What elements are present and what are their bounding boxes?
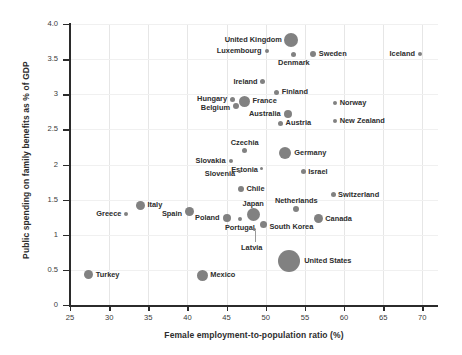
x-tick-mark (148, 305, 149, 311)
gridline-horizontal (70, 94, 438, 95)
y-tick-label: 4.0 (30, 19, 58, 28)
data-point-label: Denmark (278, 59, 310, 66)
y-tick-mark (63, 24, 69, 25)
x-tick-mark (187, 305, 188, 311)
data-point-bubble[interactable] (331, 192, 336, 197)
data-point-bubble[interactable] (238, 170, 241, 173)
x-tick-label: 40 (172, 313, 202, 322)
data-point-label: Portugal (225, 224, 255, 231)
data-point-label: Poland (195, 214, 220, 221)
x-tick-label: 65 (368, 313, 398, 322)
data-point-label: Mexico (210, 272, 235, 279)
data-point-bubble[interactable] (239, 96, 250, 107)
data-point-label: Luxembourg (217, 47, 262, 54)
data-point-bubble[interactable] (314, 214, 323, 223)
x-tick-mark (227, 305, 228, 311)
data-point-label: Germany (294, 149, 326, 156)
x-tick-label: 50 (251, 313, 281, 322)
y-tick-mark (63, 235, 69, 236)
data-point-label: Canada (325, 215, 352, 222)
data-point-bubble[interactable] (278, 121, 283, 126)
data-point-bubble[interactable] (223, 214, 231, 222)
x-tick-label: 55 (290, 313, 320, 322)
y-tick-label: 1 (30, 230, 58, 239)
x-tick-label: 30 (94, 313, 124, 322)
data-point-label: Spain (162, 210, 182, 217)
data-point-bubble[interactable] (247, 208, 260, 221)
data-point-bubble[interactable] (185, 207, 194, 216)
data-point-bubble[interactable] (333, 101, 337, 105)
data-point-label: New Zealand (340, 117, 385, 124)
data-point-bubble[interactable] (265, 49, 269, 53)
data-point-label: Belgium (201, 104, 230, 111)
x-tick-label: 70 (407, 313, 437, 322)
data-point-label: Greece (96, 211, 121, 218)
data-point-label: Sweden (319, 50, 347, 57)
data-point-label: Estonia (231, 166, 258, 173)
data-point-label: Czechia (231, 139, 259, 146)
data-point-bubble[interactable] (230, 97, 235, 102)
y-tick-mark (63, 94, 69, 95)
y-tick-label: 3 (30, 89, 58, 98)
data-point-label: South Korea (269, 223, 313, 230)
data-point-bubble[interactable] (284, 110, 292, 118)
data-point-label: Switzerland (338, 191, 379, 198)
gridline-horizontal (70, 270, 438, 271)
x-tick-label: 25 (55, 313, 85, 322)
data-point-bubble[interactable] (229, 159, 233, 163)
data-point-bubble[interactable] (274, 90, 279, 95)
data-point-label: Latvia (241, 244, 262, 251)
data-point-label: Norway (340, 99, 367, 106)
data-point-label: Austria (286, 119, 311, 126)
gridline-horizontal (70, 59, 438, 60)
data-point-bubble[interactable] (284, 33, 298, 47)
gridline-horizontal (70, 24, 438, 25)
data-point-bubble[interactable] (278, 250, 300, 272)
y-tick-label: 2.5 (30, 124, 58, 133)
x-tick-mark (344, 305, 345, 311)
label-leader-line (255, 231, 256, 242)
data-point-label: Chile (246, 185, 264, 192)
y-tick-label: 3.5 (30, 54, 58, 63)
data-point-label: Iceland (390, 50, 415, 57)
y-tick-label: 0 (30, 300, 58, 309)
data-point-bubble[interactable] (333, 119, 337, 123)
x-axis-title: Female employment-to-population ratio (%… (70, 330, 438, 340)
data-point-bubble[interactable] (293, 206, 299, 212)
y-tick-mark (63, 270, 69, 271)
data-point-bubble[interactable] (301, 169, 306, 174)
data-point-label: Italy (147, 202, 162, 209)
data-point-bubble[interactable] (242, 148, 247, 153)
data-point-label: Israel (308, 168, 327, 175)
data-point-label: Turkey (96, 271, 120, 278)
data-point-label: Slovenia (205, 170, 235, 177)
data-point-label: Hungary (197, 95, 227, 102)
data-point-label: Slovakia (196, 157, 226, 164)
data-point-bubble[interactable] (260, 167, 263, 170)
data-point-label: United States (304, 257, 351, 264)
y-tick-mark (63, 165, 69, 166)
y-tick-mark (63, 129, 69, 130)
x-tick-mark (305, 305, 306, 311)
data-point-label: Japan (243, 200, 264, 207)
data-point-bubble[interactable] (279, 147, 291, 159)
y-axis-line (69, 23, 71, 306)
gridline-horizontal (70, 129, 438, 130)
data-point-bubble[interactable] (136, 201, 145, 210)
y-tick-mark (63, 59, 69, 60)
data-point-label: United Kingdom (225, 36, 282, 43)
x-axis-title-text: Female employment-to-population ratio (%… (164, 330, 343, 340)
y-tick-label: 2 (30, 160, 58, 169)
data-point-bubble[interactable] (197, 270, 208, 281)
y-tick-label: 1.5 (30, 195, 58, 204)
x-tick-mark (266, 305, 267, 311)
data-point-label: Australia (249, 110, 281, 117)
data-point-bubble[interactable] (310, 51, 316, 57)
x-tick-label: 45 (212, 313, 242, 322)
y-tick-mark (63, 305, 69, 306)
x-tick-label: 60 (329, 313, 359, 322)
x-tick-mark (383, 305, 384, 311)
data-point-bubble[interactable] (418, 52, 422, 56)
data-point-label: Ireland (233, 78, 257, 85)
x-tick-label: 35 (133, 313, 163, 322)
